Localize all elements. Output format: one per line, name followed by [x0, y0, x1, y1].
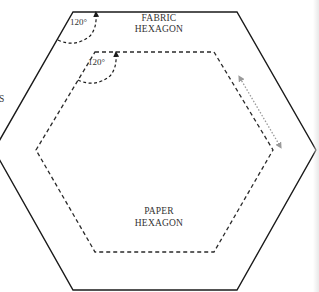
fabric-hexagon-label-line1: FABRIC: [142, 13, 177, 23]
paper-hexagon-label-line2: HEXAGON: [135, 218, 183, 228]
hexagon-diagram: 120° 120° FABRIC HEXAGON PAPER HEXAGON S: [0, 0, 319, 292]
fabric-hexagon-label-line2: HEXAGON: [135, 24, 183, 34]
fabric-hexagon-outline: [0, 12, 316, 290]
angle-label-fabric: 120°: [70, 17, 88, 27]
angle-label-paper: 120°: [88, 57, 106, 67]
cut-off-label-left: S: [0, 94, 4, 104]
paper-hexagon-label-line1: PAPER: [144, 206, 174, 216]
seam-allowance-arrow: [240, 78, 280, 146]
page-edge-shadow: [313, 0, 319, 292]
